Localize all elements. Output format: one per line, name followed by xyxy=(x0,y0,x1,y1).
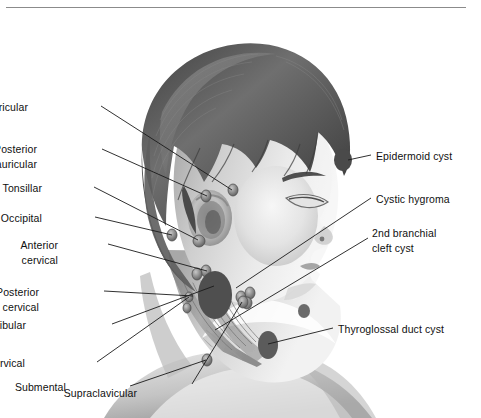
label-thyroglossal-duct-cyst-line-1: Thyroglossal duct cyst xyxy=(338,322,444,337)
mass-epidermoid-cyst xyxy=(334,149,352,171)
label-occipital-line-1: Occipital xyxy=(1,211,42,226)
node-tonsillar xyxy=(193,235,205,247)
label-posterior-cervical: Posteriorcervical xyxy=(0,285,39,314)
node-deep-cervical-b xyxy=(183,303,191,313)
label-tonsillar: Tonsillar xyxy=(3,181,42,196)
head xyxy=(142,43,350,304)
label-posterior-cervical-line-2: cervical xyxy=(0,300,39,315)
node-preauricular xyxy=(228,184,238,196)
label-cystic-hygroma-line-1: Cystic hygroma xyxy=(376,192,450,207)
node-posterior-auricular xyxy=(201,190,211,202)
label-occipital: Occipital xyxy=(1,211,42,226)
label-posterior-auricular-line-1: Posterior xyxy=(0,142,37,157)
label-submandibular-line-1: Submandibular xyxy=(0,318,26,333)
label-supraclavicular: Supraclavicular xyxy=(64,386,137,401)
label-second-branchial-cleft-cyst: 2nd branchialcleft cyst xyxy=(372,226,436,255)
node-occipital xyxy=(167,229,177,241)
label-second-branchial-cleft-cyst-line-1: 2nd branchial xyxy=(372,226,436,241)
label-supraclavicular-line-1: Supraclavicular xyxy=(64,386,137,401)
mass-branchial-cleft xyxy=(298,304,310,318)
label-preauricular-line-1: Preauricular xyxy=(0,100,28,115)
label-deep-cervical: Deep cervical xyxy=(0,356,25,371)
label-posterior-auricular-line-2: auricular xyxy=(0,157,37,172)
label-anterior-cervical-line-1: Anterior xyxy=(20,238,58,253)
label-preauricular: Preauricular xyxy=(0,100,28,115)
label-epidermoid-cyst: Epidermoid cyst xyxy=(376,149,452,164)
node-supraclavicular xyxy=(238,296,248,308)
label-anterior-cervical: Anteriorcervical xyxy=(20,238,58,267)
label-submental: Submental xyxy=(15,380,66,395)
label-epidermoid-cyst-line-1: Epidermoid cyst xyxy=(376,149,452,164)
head-neck-illustration xyxy=(0,0,481,418)
node-submental xyxy=(202,354,212,366)
label-second-branchial-cleft-cyst-line-2: cleft cyst xyxy=(372,241,436,256)
anatomy-figure: PreauricularPosteriorauricularTonsillarO… xyxy=(0,0,481,418)
label-submental-line-1: Submental xyxy=(15,380,66,395)
node-deep-cervical-a xyxy=(185,292,193,302)
label-submandibular: Submandibular xyxy=(0,318,26,333)
label-cystic-hygroma: Cystic hygroma xyxy=(376,192,450,207)
label-thyroglossal-duct-cyst: Thyroglossal duct cyst xyxy=(338,322,444,337)
mass-thyroglossal-duct xyxy=(258,331,278,359)
label-tonsillar-line-1: Tonsillar xyxy=(3,181,42,196)
mass-cystic-hygroma xyxy=(198,271,232,319)
label-posterior-cervical-line-1: Posterior xyxy=(0,285,39,300)
node-anterior-cervical-b xyxy=(192,268,202,280)
label-deep-cervical-line-1: Deep cervical xyxy=(0,356,25,371)
label-anterior-cervical-line-2: cervical xyxy=(20,253,58,268)
label-posterior-auricular: Posteriorauricular xyxy=(0,142,37,171)
